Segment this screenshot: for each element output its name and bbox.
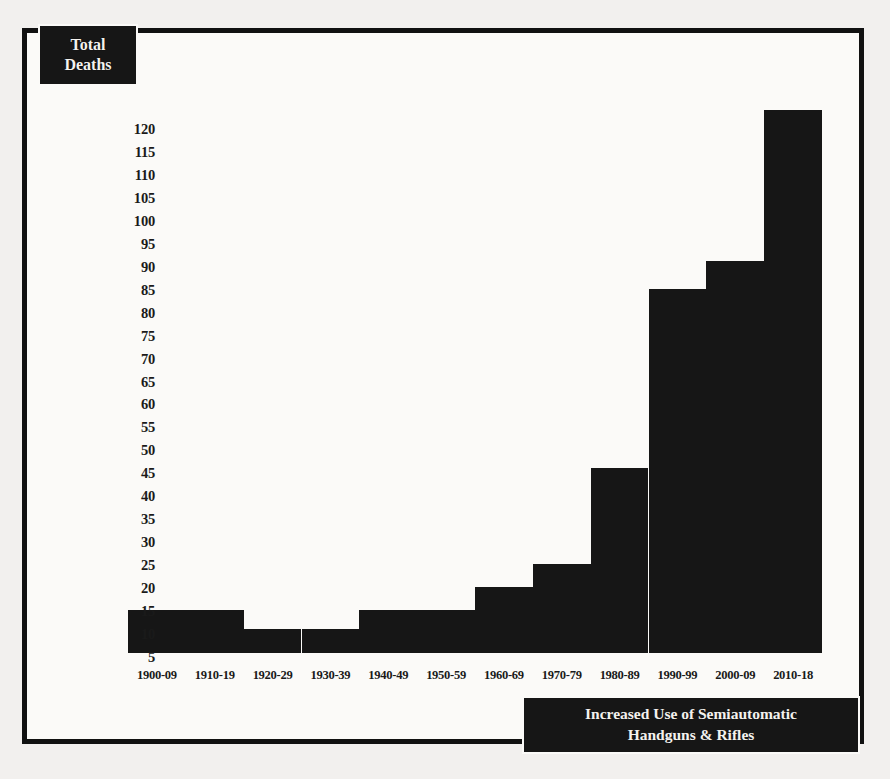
bar [475,587,533,653]
x-axis-tick-label: 1950-59 [414,668,478,683]
x-axis-tick-label: 1920-29 [241,668,305,683]
x-axis-tick-label: 2000-09 [703,668,767,683]
y-axis-tick-label: 40 [109,489,155,504]
chart-caption-badge: Increased Use of Semiautomatic Handguns … [522,696,860,754]
y-axis-tick-label: 45 [109,466,155,481]
bar [533,564,591,653]
y-axis-tick-label: 5 [109,650,155,665]
y-axis-tick-label: 25 [109,558,155,573]
y-axis-tick-label: 10 [109,627,155,642]
x-axis-tick-label: 1940-49 [356,668,420,683]
y-axis-tick-label: 50 [109,443,155,458]
bar [244,629,302,653]
bar [706,261,764,653]
y-axis-tick-label: 85 [109,283,155,298]
caption-line-2: Handguns & Rifles [628,725,755,746]
y-axis-tick-label: 75 [109,329,155,344]
bar [302,629,360,653]
bar [186,610,244,653]
bar [591,468,649,653]
x-axis: 1900-091910-191920-291930-391940-491950-… [27,668,869,692]
y-axis-tick-label: 120 [109,122,155,137]
x-axis-tick-label: 2010-18 [761,668,825,683]
y-axis-tick-label: 20 [109,581,155,596]
bar [359,610,417,653]
y-axis-tick-label: 30 [109,535,155,550]
x-axis-tick-label: 1930-39 [299,668,363,683]
y-axis-tick-label: 15 [109,604,155,619]
y-axis-tick-label: 100 [109,214,155,229]
bar [417,610,475,653]
y-axis-title-badge: Total Deaths [38,24,138,86]
y-axis-title-line-1: Total [71,35,106,55]
y-axis-tick-label: 105 [109,191,155,206]
y-axis-title-line-2: Deaths [64,55,111,75]
caption-line-1: Increased Use of Semiautomatic [585,704,797,725]
y-axis-tick-label: 60 [109,397,155,412]
y-axis-tick-label: 95 [109,237,155,252]
y-axis-tick-label: 90 [109,260,155,275]
bar [764,110,822,653]
x-axis-tick-label: 1970-79 [530,668,594,683]
y-axis-tick-label: 115 [109,145,155,160]
x-axis-tick-label: 1900-09 [125,668,189,683]
x-axis-tick-label: 1990-99 [646,668,710,683]
y-axis-tick-label: 80 [109,306,155,321]
x-axis-tick-label: 1910-19 [183,668,247,683]
y-axis-tick-label: 35 [109,512,155,527]
y-axis-tick-label: 65 [109,375,155,390]
x-axis-tick-label: 1960-69 [472,668,536,683]
y-axis-tick-label: 70 [109,352,155,367]
chart-figure: 1201151101051009590858075706560555045403… [22,28,864,744]
bar [649,289,707,653]
x-axis-tick-label: 1980-89 [588,668,652,683]
y-axis: 1201151101051009590858075706560555045403… [99,33,155,749]
y-axis-tick-label: 110 [109,168,155,183]
y-axis-tick-label: 55 [109,420,155,435]
